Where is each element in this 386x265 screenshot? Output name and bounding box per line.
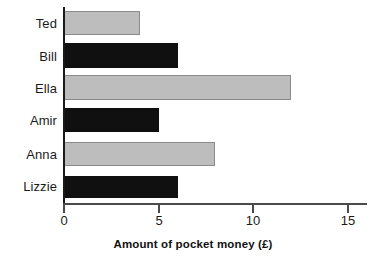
category-label-ted: Ted — [0, 16, 57, 31]
category-label-amir: Amir — [0, 113, 57, 128]
plot-area: Ted Bill Ella Amir Anna Lizzie 0 5 10 15… — [0, 0, 386, 265]
x-tick-label-3: 15 — [328, 213, 368, 228]
bar-ted — [64, 11, 140, 35]
y-axis-line — [63, 7, 65, 203]
x-axis-title: Amount of pocket money (£) — [0, 238, 386, 250]
x-tick-label-1: 5 — [139, 213, 179, 228]
bar-amir — [64, 108, 159, 132]
x-tick-label-2: 10 — [233, 213, 273, 228]
category-label-bill: Bill — [0, 49, 57, 64]
bar-bill — [64, 43, 178, 68]
bar-anna — [64, 142, 215, 166]
x-tick-label-0: 0 — [44, 213, 84, 228]
x-tick-mark-0 — [63, 205, 65, 213]
category-label-lizzie: Lizzie — [0, 179, 57, 194]
category-label-anna: Anna — [0, 147, 57, 162]
x-tick-mark-1 — [158, 205, 160, 213]
x-tick-mark-3 — [347, 205, 349, 213]
bar-chart: Ted Bill Ella Amir Anna Lizzie 0 5 10 15… — [0, 0, 386, 265]
bar-ella — [64, 75, 291, 100]
x-tick-mark-2 — [252, 205, 254, 213]
x-axis-line — [63, 203, 367, 205]
category-label-ella: Ella — [0, 81, 57, 96]
bar-lizzie — [64, 176, 178, 198]
